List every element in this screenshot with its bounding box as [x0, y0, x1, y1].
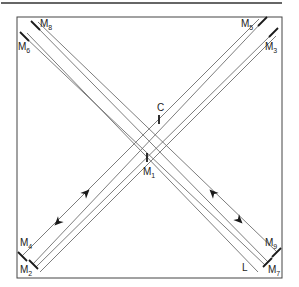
arrow-left-down-icon	[52, 216, 64, 228]
beam-m6-L	[27, 33, 258, 272]
beam-m6-m7	[24, 36, 265, 265]
mirror-m2	[29, 260, 38, 269]
label-l: L	[242, 262, 248, 273]
label-m8: M8	[40, 18, 52, 31]
beam-m3-m2	[36, 33, 273, 267]
mirror-m5	[258, 17, 267, 26]
label-m2: M2	[20, 264, 32, 277]
mirror-m3	[269, 28, 278, 37]
label-m7: M7	[268, 264, 280, 277]
direction-arrows	[52, 187, 246, 229]
label-m9: M9	[265, 237, 277, 250]
label-m4: M4	[20, 237, 32, 250]
beam-m3-out	[40, 36, 276, 272]
laser-interferometer-diagram: M8M6M5M3CM1M4M2M9M7L	[0, 0, 299, 287]
beam-m8-m9	[38, 22, 277, 252]
arrow-left-up-icon	[80, 187, 92, 199]
mirror-m4	[18, 252, 27, 261]
beam-m8-m7	[35, 25, 268, 262]
label-m1: M1	[143, 166, 155, 179]
mirrors	[18, 17, 281, 269]
label-m5: M5	[241, 18, 253, 31]
label-c: C	[157, 102, 164, 113]
label-m6: M6	[18, 41, 30, 54]
label-m3: M3	[265, 41, 277, 54]
arrow-right-up-icon	[207, 187, 219, 199]
beam-paths	[22, 19, 277, 272]
